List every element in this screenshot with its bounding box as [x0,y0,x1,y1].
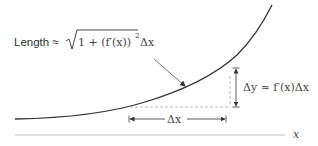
length-delta-x: Δx [140,36,155,49]
x-axis-label: x [293,128,300,141]
arc-length-diagram: x Δy ≈ f′(x)Δx Δx Length ≈ 1 + (f′(x)) 2… [0,0,318,146]
function-curve [15,5,272,119]
sqrt-inner: 1 + (f′(x)) [78,36,131,49]
delta-y-dimension [233,68,240,107]
delta-x-label: Δx [167,113,182,126]
length-formula: Length ≈ 1 + (f′(x)) 2 Δx [14,30,155,49]
pointer-arrow [154,59,185,86]
sqrt-exponent: 2 [135,32,139,40]
length-prefix: Length ≈ [14,36,59,48]
delta-y-label: Δy ≈ f′(x)Δx [243,81,310,94]
